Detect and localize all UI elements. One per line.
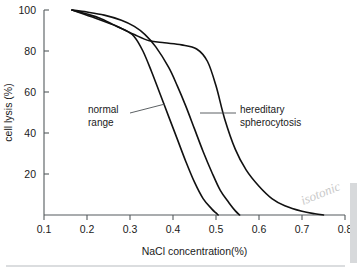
osmotic-fragility-chart: 20406080100 0.10.20.30.40.50.60.70.8 cel… (0, 0, 357, 270)
normal-range-label-line1: normal (88, 104, 119, 115)
y-tick-label: 80 (24, 45, 36, 57)
y-tick-label: 100 (18, 4, 36, 16)
hereditary-spherocytosis-label-line2: spherocytosis (240, 117, 301, 128)
x-tick-label: 0.4 (166, 223, 181, 235)
y-tick-label: 60 (24, 86, 36, 98)
x-tick-label: 0.5 (209, 223, 224, 235)
page-edge-strip (350, 183, 357, 263)
normal-range-label-line2: range (88, 117, 114, 128)
x-tick-label: 0.6 (252, 223, 267, 235)
x-tick-label: 0.3 (123, 223, 138, 235)
y-axis-title: cell lysis (%) (2, 83, 14, 141)
x-tick-label: 0.2 (80, 223, 95, 235)
y-tick-label: 20 (24, 168, 36, 180)
hereditary-spherocytosis-label-line1: hereditary (240, 104, 284, 115)
chart-figure: 20406080100 0.10.20.30.40.50.60.70.8 cel… (0, 0, 357, 270)
x-axis-title: NaCl concentration(%) (142, 245, 248, 257)
x-tick-label: 0.7 (295, 223, 310, 235)
y-tick-label: 40 (24, 127, 36, 139)
x-tick-label: 0.1 (37, 223, 52, 235)
